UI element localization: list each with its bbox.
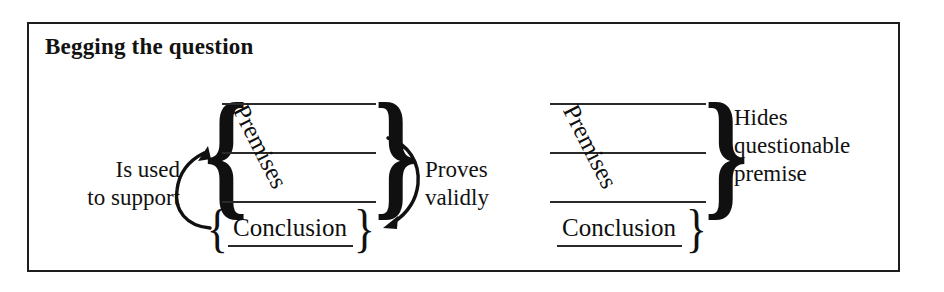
right-conclusion-rule [557, 245, 682, 247]
is-used-to-support-arrow [170, 140, 220, 235]
hides-line-1: Hides [734, 104, 850, 132]
left-annotation-line-1: Is used [55, 156, 180, 184]
left-annotation-line-2: to support [55, 184, 180, 212]
right-premise-rule-3 [550, 201, 706, 203]
left-annotation-proves-validly: Proves validly [425, 156, 489, 212]
left-annotation-is-used-to-support: Is used to support [55, 156, 180, 212]
right-conclusion-label: Conclusion [562, 214, 676, 242]
hides-line-3: premise [734, 160, 850, 188]
right-premise-rule-2 [550, 152, 706, 154]
left-premise-rule-2 [222, 152, 376, 154]
right-annotation-hides-questionable-premise: Hides questionable premise [734, 104, 850, 188]
left-conclusion-close-brace: } [354, 203, 375, 255]
proves-validly-line-2: validly [425, 184, 489, 212]
figure-title: Begging the question [45, 34, 253, 60]
hides-line-2: questionable [734, 132, 850, 160]
left-conclusion-label: Conclusion [233, 214, 347, 242]
figure-root: Begging the question { } Premises { Conc… [0, 0, 944, 292]
left-conclusion-rule [228, 245, 353, 247]
right-conclusion-close-brace: } [686, 203, 707, 255]
proves-validly-arrow [378, 130, 428, 235]
proves-validly-line-1: Proves [425, 156, 489, 184]
